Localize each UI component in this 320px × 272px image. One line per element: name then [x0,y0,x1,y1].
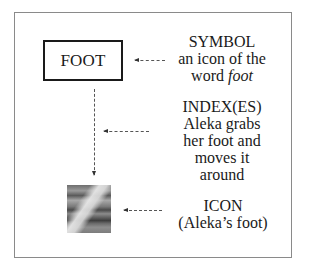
index-desc-line: her foot and [162,132,282,149]
symbol-title: SYMBOL [162,33,282,50]
symbol-desc-italic: foot [228,67,253,84]
icon-caption: (Aleka’s foot) [160,214,286,231]
symbol-desc-line2: word foot [162,67,282,84]
index-desc-line: Aleka grabs [162,115,282,132]
arrow-left-icon [135,60,165,61]
symbol-desc-line1: an icon of the [162,50,282,67]
symbol-box-foot: FOOT [43,40,123,81]
index-label: INDEX(ES) Aleka grabs her foot and moves… [162,98,282,183]
foot-word: FOOT [60,51,105,71]
arrow-left-icon [124,210,162,211]
symbol-desc-prefix: word [191,67,228,84]
arrow-down-icon [94,89,95,175]
index-desc-line: around [162,166,282,183]
icon-label: ICON (Aleka’s foot) [160,197,286,231]
index-title: INDEX(ES) [162,98,282,115]
index-desc-line: moves it [162,149,282,166]
icon-title: ICON [160,197,286,214]
foot-photo [67,185,111,233]
symbol-label: SYMBOL an icon of the word foot [162,33,282,84]
arrow-left-icon [104,131,149,132]
